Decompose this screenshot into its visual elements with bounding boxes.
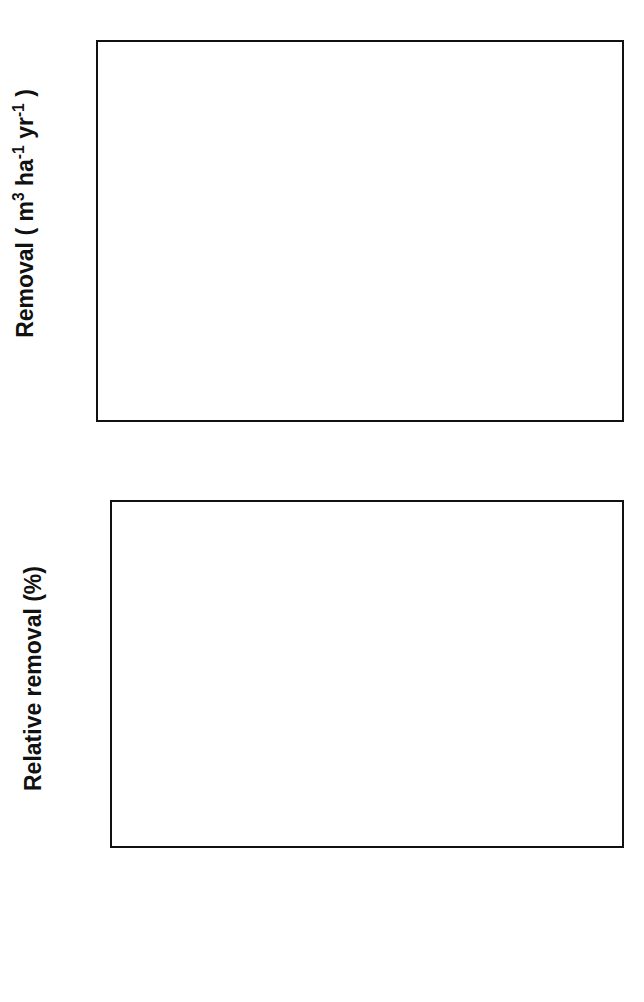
y-axis-label-bottom: Relative removal (%) — [20, 534, 47, 824]
plot-area-removal-absolute — [96, 40, 624, 422]
chart-panel-removal-relative: Relative removal (%) — [0, 490, 644, 910]
plot-area-removal-relative — [110, 500, 624, 848]
chart-panel-removal-absolute: Removal ( m3 ha-1 yr-1 ) — [0, 0, 644, 485]
figure-root: Removal ( m3 ha-1 yr-1 ) Relative remova… — [0, 0, 644, 1002]
y-axis-label-top: Removal ( m3 ha-1 yr-1 ) — [12, 49, 39, 379]
